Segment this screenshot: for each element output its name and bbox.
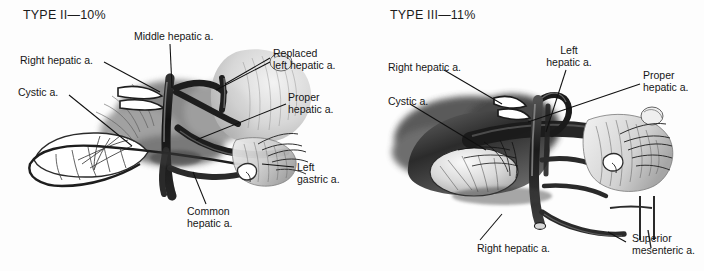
anatomy-figure: TYPE II—10% xyxy=(0,0,704,271)
label-left-gastric-artery: Left gastric a. xyxy=(297,162,340,185)
label-proper-hepatic-artery: Proper hepatic a. xyxy=(288,92,334,115)
panel-type-3: TYPE III—11% xyxy=(352,0,704,271)
label-middle-hepatic-artery: Middle hepatic a. xyxy=(134,31,213,43)
label-common-hepatic-artery: Common hepatic a. xyxy=(187,206,233,229)
illustration-type-3 xyxy=(352,0,704,271)
label-right-hepatic-artery: Right hepatic a. xyxy=(388,62,461,74)
label-cystic-artery: Cystic a. xyxy=(388,96,428,108)
label-right-hepatic-artery: Right hepatic a. xyxy=(20,55,93,67)
label-replaced-right-hepatic-artery: Right hepatic a. xyxy=(477,243,550,255)
label-proper-hepatic-artery: Proper hepatic a. xyxy=(643,70,689,93)
label-left-hepatic-artery: Left hepatic a. xyxy=(535,45,603,68)
label-superior-mesenteric-artery: Superior mesenteric a. xyxy=(632,233,695,256)
label-replaced-left-hepatic-artery: Replaced left hepatic a. xyxy=(273,48,335,71)
panel-type-2: TYPE II—10% xyxy=(0,0,352,271)
label-cystic-artery: Cystic a. xyxy=(18,87,58,99)
